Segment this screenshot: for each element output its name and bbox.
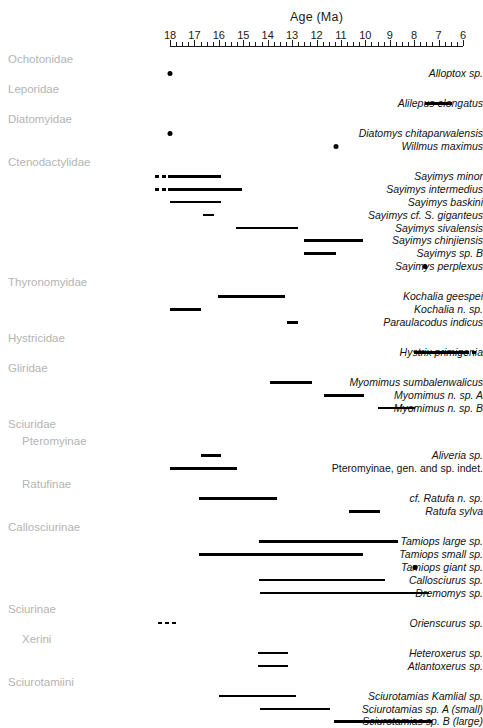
group-label-callosciurinae: Callosciurinae (8, 521, 80, 534)
range-bar (199, 553, 363, 556)
taxon-row: Sayimys perplexus (0, 260, 483, 273)
x-minor-tick (310, 42, 311, 46)
x-minor-tick (176, 42, 177, 46)
range-bar (259, 579, 385, 582)
taxon-row: Sciurotamias Kamlial sp. (0, 690, 483, 703)
taxon-row: Tamiops giant sp. (0, 561, 483, 574)
axis-title: Age (Ma) (170, 10, 463, 24)
group-label-thyronomyidae: Thyronomyidae (8, 276, 87, 289)
taxon-row: Tamiops small sp. (0, 548, 483, 561)
occurrence-point-marker (168, 71, 173, 76)
range-bar-uncertain-start (155, 175, 167, 178)
taxon-row: Sciurotamias sp. B (large) (0, 715, 483, 728)
x-minor-tick (457, 42, 458, 46)
x-minor-tick (396, 42, 397, 46)
x-minor-tick (451, 42, 452, 46)
taxon-label: cf. Ratufa n. sp. (318, 492, 483, 505)
x-minor-tick (359, 42, 360, 46)
taxon-row: Ratufa sylva (0, 505, 483, 518)
range-bar (378, 407, 416, 410)
range-bar (170, 201, 221, 204)
x-minor-tick (286, 42, 287, 46)
range-bar (199, 497, 277, 500)
occurrence-point-marker (168, 131, 173, 136)
x-major-tick (170, 40, 171, 46)
group-label-ochotonidae: Ochotonidae (8, 53, 73, 66)
range-bar (260, 708, 330, 711)
taxon-label: Sciurotamias sp. A (small) (318, 703, 483, 716)
x-minor-tick (274, 42, 275, 46)
taxon-row: Kochalia n. sp. (0, 303, 483, 316)
taxon-label: Paraulacodus indicus (318, 316, 483, 329)
taxon-row: Sciurotamias sp. A (small) (0, 703, 483, 716)
x-minor-tick (371, 42, 372, 46)
x-major-tick (365, 40, 366, 46)
taxon-label: Aliveria sp. (318, 449, 483, 462)
taxon-row: Kochalia geespei (0, 290, 483, 303)
range-bar (168, 175, 222, 178)
range-bar (270, 381, 312, 384)
x-minor-tick (262, 42, 263, 46)
range-bar-uncertain (158, 622, 178, 625)
range-bar (324, 394, 364, 397)
taxon-label: Sayimys intermedius (318, 183, 483, 196)
x-minor-tick (408, 42, 409, 46)
taxon-label: Sayimys sivalensis (318, 222, 483, 235)
range-bar (287, 321, 298, 324)
x-minor-tick (432, 42, 433, 46)
taxon-row: Alilepus elongatus (0, 97, 483, 110)
group-label-leporidae: Leporidae (8, 83, 59, 96)
taxon-row: Orienscurus sp. (0, 617, 483, 630)
taxon-label: Heteroxerus sp. (318, 647, 483, 660)
range-bar (236, 227, 298, 230)
range-bar (170, 467, 237, 470)
x-minor-tick (323, 42, 324, 46)
taxon-row: Sayimys sp. B (0, 247, 483, 260)
taxon-label: Sayimys baskini (318, 196, 483, 209)
x-major-tick (194, 40, 195, 46)
taxon-row: Sayimys chinjiensis (0, 234, 483, 247)
x-minor-tick (420, 42, 421, 46)
x-minor-tick (225, 42, 226, 46)
taxon-label: Sayimys perplexus (318, 260, 483, 273)
group-label-ctenodactylidae: Ctenodactylidae (8, 156, 90, 169)
range-bar (258, 665, 289, 668)
range-bar (334, 720, 433, 723)
occurrence-point-marker (423, 264, 428, 269)
taxon-row: Sayimys cf. S. giganteus (0, 209, 483, 222)
group-label-diatomyidae: Diatomyidae (8, 113, 72, 126)
group-label-xerini: Xerini (22, 633, 51, 646)
x-minor-tick (445, 42, 446, 46)
x-major-tick (292, 40, 293, 46)
x-minor-tick (188, 42, 189, 46)
x-minor-tick (402, 42, 403, 46)
taxon-label: Sayimys cf. S. giganteus (318, 209, 483, 222)
x-major-tick (414, 40, 415, 46)
range-bar (425, 102, 452, 105)
taxon-label: Pteromyinae, gen. and sp. indet. (318, 462, 483, 475)
taxon-label: Kochalia geespei (318, 290, 483, 303)
x-minor-tick (280, 42, 281, 46)
x-minor-tick (207, 42, 208, 46)
x-minor-tick (213, 42, 214, 46)
x-minor-tick (304, 42, 305, 46)
taxon-label: Alloptox sp. (318, 67, 483, 80)
x-major-tick (317, 40, 318, 46)
occurrence-point-marker (413, 565, 418, 570)
taxon-row: Callosciurus sp. (0, 574, 483, 587)
taxon-row: Sayimys intermedius (0, 183, 483, 196)
range-bar (168, 188, 242, 191)
x-minor-tick (329, 42, 330, 46)
taxon-row: Heteroxerus sp. (0, 647, 483, 660)
taxon-row: Tamiops large sp. (0, 535, 483, 548)
taxon-label: Myomimus sumbalenwalicus (318, 376, 483, 389)
taxon-label: Sayimys sp. B (318, 247, 483, 260)
x-minor-tick (237, 42, 238, 46)
taxon-row: Pteromyinae, gen. and sp. indet. (0, 462, 483, 475)
range-bar (259, 540, 398, 543)
taxon-row: cf. Ratufa n. sp. (0, 492, 483, 505)
group-label-hystricidae: Hystricidae (8, 332, 65, 345)
taxon-row: Sayimys sivalensis (0, 222, 483, 235)
taxon-row: Atlantoxerus sp. (0, 660, 483, 673)
